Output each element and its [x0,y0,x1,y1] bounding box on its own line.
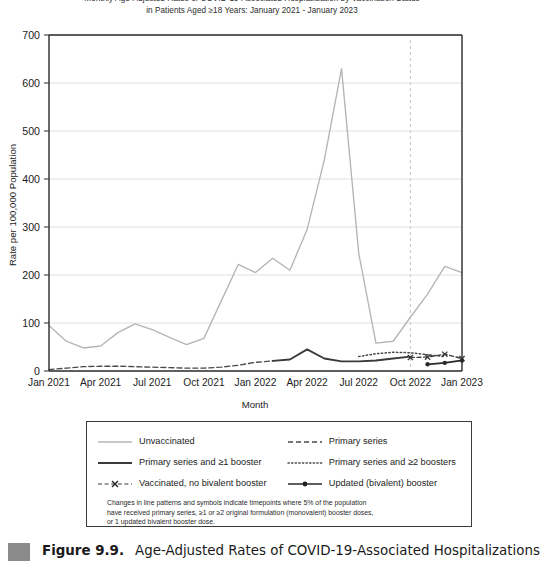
legend-item-one-booster[interactable]: Primary series and ≥1 booster [97,457,287,469]
x-axis-title: Month [242,399,269,410]
caption-figure-number: Figure 9.9. [42,543,124,558]
axis-frame [49,35,462,371]
series-marker-dot [443,361,447,365]
legend-swatch-bivalent-booster [287,478,323,490]
x-axis-tick-label: Apr 2021 [80,377,122,388]
legend-row: Vaccinated, no bivalent booster Updated … [97,473,461,494]
legend-swatch-no-bivalent [97,478,133,490]
x-axis-tick-label: Jan 2021 [28,377,70,388]
x-axis-tick-label: Oct 2021 [183,377,225,388]
y-axis-tick-label: 100 [22,317,40,329]
x-axis-tick-label: Jul 2022 [339,377,378,388]
legend-item-no-bivalent[interactable]: Vaccinated, no bivalent booster [97,478,287,490]
legend-item-two-boosters[interactable]: Primary series and ≥2 boosters [287,457,461,469]
legend-footnote: Changes in line patterns and symbols ind… [107,498,467,527]
series-marker-dot [425,362,429,366]
legend-label-two-boosters: Primary series and ≥2 boosters [329,457,456,468]
legend-item-primary-series[interactable]: Primary series [287,436,461,448]
legend-label-one-booster: Primary series and ≥1 booster [139,457,262,468]
y-axis-tick-label: 300 [22,221,40,233]
chart-legend: Unvaccinated Primary series Primary seri… [86,421,472,527]
grid-lines [49,35,462,323]
y-axis-tick-label: 400 [22,173,40,185]
legend-footnote-line-1: Changes in line patterns and symbols ind… [107,498,467,508]
legend-label-primary-series: Primary series [329,436,388,447]
legend-entries: Unvaccinated Primary series Primary seri… [87,422,471,527]
figure-caption: Figure 9.9. Age-Adjusted Rates of COVID-… [0,538,504,567]
x-axis-tick-label: Jul 2021 [133,377,172,388]
y-axis-tick-labels: 0100200300400500600700 [22,29,40,377]
legend-item-bivalent-booster[interactable]: Updated (bivalent) booster [287,478,461,490]
caption-figure-text: Age-Adjusted Rates of COVID-19-Associate… [135,543,540,558]
x-axis-tick-label: Apr 2022 [286,377,328,388]
legend-footnote-line-3: or 1 updated bivalent booster dose. [107,517,467,527]
series-line [410,354,462,358]
legend-swatch-one-booster [97,457,133,469]
series-line [49,361,273,370]
legend-label-no-bivalent: Vaccinated, no bivalent booster [139,478,267,489]
y-axis-tick-label: 700 [22,29,40,41]
series-line [49,69,462,348]
x-axis-tick-label: Oct 2022 [390,377,432,388]
line-chart: 0100200300400500600700 Jan 2021Apr 2021J… [0,0,504,420]
data-series-layer [49,69,465,370]
legend-swatch-unvaccinated [97,436,133,448]
y-axis-tick-label: 0 [34,365,40,377]
legend-item-unvaccinated[interactable]: Unvaccinated [97,436,287,448]
x-axis-tick-label: Jan 2023 [441,377,483,388]
x-axis-tick-labels: Jan 2021Apr 2021Jul 2021Oct 2021Jan 2022… [28,377,483,388]
y-axis-tick-label: 200 [22,269,40,281]
caption-rule-mark [8,543,30,561]
y-axis-tick-label: 600 [22,77,40,89]
legend-row: Unvaccinated Primary series [97,431,461,452]
x-axis-tick-label: Jan 2022 [235,377,277,388]
legend-footnote-line-2: have received primary series, ≥1 or ≥2 o… [107,508,467,518]
legend-label-unvaccinated: Unvaccinated [139,436,195,447]
y-axis-title: Rate per 100,000 Population [7,144,18,266]
legend-swatch-two-boosters [287,457,323,469]
legend-label-bivalent-booster: Updated (bivalent) booster [329,478,437,489]
y-axis-ticks [44,35,49,371]
series-line [273,349,411,361]
legend-row: Primary series and ≥1 booster Primary se… [97,452,461,473]
legend-swatch-primary-series [287,436,323,448]
y-axis-tick-label: 500 [22,125,40,137]
